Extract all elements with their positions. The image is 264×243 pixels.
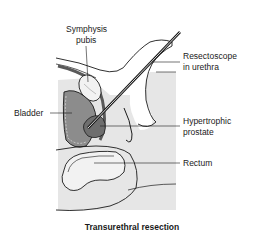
label-prostate-line2: prostate <box>183 127 214 137</box>
figure-caption: Transurethral resection <box>0 222 264 232</box>
label-rectum: Rectum <box>183 158 212 168</box>
label-prostate-line1: Hypertrophic <box>183 116 231 126</box>
label-resectoscope-line2: in urethra <box>183 62 219 72</box>
label-symphysis-line2: pubis <box>76 35 96 45</box>
label-resectoscope-line1: Resectoscope <box>183 51 237 61</box>
transurethral-resection-diagram: Symphysis pubis Resectoscope in urethra … <box>0 0 264 243</box>
label-symphysis-line1: Symphysis <box>66 24 107 34</box>
label-bladder: Bladder <box>14 108 43 118</box>
